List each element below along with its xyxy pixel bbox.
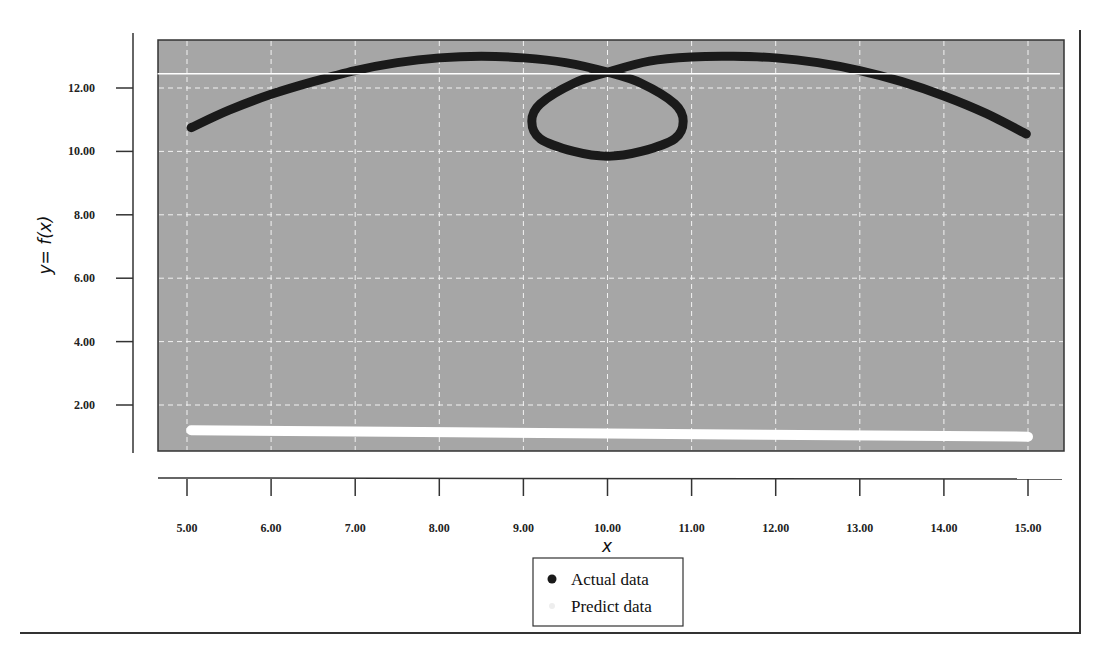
y-tick-label: 6.00 [74, 271, 95, 285]
legend: Actual data Predict data [533, 558, 683, 626]
x-tick-label: 6.00 [261, 521, 282, 535]
predict-data-line [191, 430, 1028, 436]
x-tick-label: 15.00 [1015, 521, 1042, 535]
x-axis-title: x [601, 536, 613, 556]
x-tick-label: 10.00 [594, 521, 621, 535]
x-axis-line [158, 478, 1062, 479]
y-tick-label: 4.00 [74, 335, 95, 349]
x-tick-label: 12.00 [762, 521, 789, 535]
legend-predict-label: Predict data [571, 597, 652, 616]
chart: 2.004.006.008.0010.0012.00 y= f(x) 5.006… [0, 0, 1107, 668]
y-axis-ticks: 2.004.006.008.0010.0012.00 [68, 81, 133, 412]
y-tick-label: 2.00 [74, 398, 95, 412]
legend-actual-marker [548, 575, 557, 584]
x-tick-label: 5.00 [177, 521, 198, 535]
legend-predict-marker [549, 603, 555, 609]
x-axis-ticks: 5.006.007.008.009.0010.0011.0012.0013.00… [177, 479, 1042, 535]
y-tick-label: 10.00 [68, 144, 95, 158]
y-tick-label: 8.00 [74, 208, 95, 222]
x-tick-label: 14.00 [930, 521, 957, 535]
x-tick-label: 13.00 [846, 521, 873, 535]
x-tick-label: 8.00 [429, 521, 450, 535]
plot-area [158, 40, 1064, 451]
legend-actual-label: Actual data [571, 570, 649, 589]
y-tick-label: 12.00 [68, 81, 95, 95]
y-axis-title: y= f(x) [35, 215, 55, 275]
x-tick-label: 7.00 [345, 521, 366, 535]
x-tick-label: 11.00 [678, 521, 704, 535]
x-tick-label: 9.00 [513, 521, 534, 535]
